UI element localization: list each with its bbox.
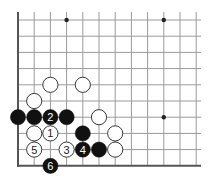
go-board: 215346 bbox=[0, 0, 217, 187]
move-number-label: 2 bbox=[47, 111, 53, 123]
stone-disc bbox=[43, 77, 58, 92]
move-number-label: 6 bbox=[47, 160, 53, 172]
stone-disc bbox=[10, 110, 25, 125]
white-stone-move-5: 5 bbox=[27, 142, 42, 157]
black-stone bbox=[91, 142, 106, 157]
white-stone bbox=[108, 126, 123, 141]
stone-disc bbox=[91, 110, 106, 125]
black-stone-move-2: 2 bbox=[43, 110, 58, 125]
black-stone bbox=[59, 110, 74, 125]
stone-disc bbox=[75, 126, 90, 141]
white-stone bbox=[43, 77, 58, 92]
move-number-label: 5 bbox=[31, 144, 37, 156]
black-stone bbox=[10, 110, 25, 125]
stone-disc bbox=[91, 142, 106, 157]
stone-disc bbox=[27, 110, 42, 125]
move-number-label: 1 bbox=[47, 127, 53, 139]
white-stone bbox=[27, 126, 42, 141]
move-number-label: 3 bbox=[64, 144, 70, 156]
white-stone bbox=[75, 77, 90, 92]
black-stone bbox=[75, 126, 90, 141]
stone-disc bbox=[59, 110, 74, 125]
star-point bbox=[162, 18, 166, 22]
white-stone bbox=[108, 142, 123, 157]
star-point bbox=[64, 18, 68, 22]
black-stone-move-4: 4 bbox=[75, 142, 90, 157]
star-point bbox=[162, 115, 166, 119]
stone-disc bbox=[27, 93, 42, 108]
stone-disc bbox=[108, 142, 123, 157]
white-stone bbox=[27, 93, 42, 108]
black-stone bbox=[27, 110, 42, 125]
move-number-label: 4 bbox=[80, 144, 86, 156]
white-stone bbox=[91, 110, 106, 125]
white-stone-move-3: 3 bbox=[59, 142, 74, 157]
stone-disc bbox=[75, 77, 90, 92]
black-stone-move-6: 6 bbox=[43, 158, 58, 173]
stone-disc bbox=[108, 126, 123, 141]
white-stone-move-1: 1 bbox=[43, 126, 58, 141]
stone-disc bbox=[27, 126, 42, 141]
